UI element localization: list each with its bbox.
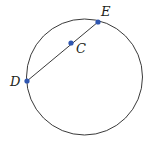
point-c (68, 40, 73, 45)
point-d (24, 78, 29, 83)
label-c: C (76, 41, 86, 56)
label-e: E (100, 4, 111, 19)
segment-de (27, 22, 98, 81)
label-d: D (9, 74, 21, 89)
point-e (95, 19, 100, 24)
circle-diagram: D C E (0, 0, 151, 147)
circle (27, 19, 143, 135)
